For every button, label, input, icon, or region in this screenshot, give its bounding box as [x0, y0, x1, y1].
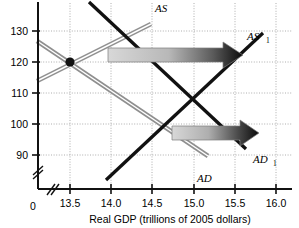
- x-tick-label-14-5: 14.5: [142, 197, 163, 209]
- curve-label-ad1: AD: [252, 153, 268, 165]
- x-tick-label-15-0: 15.0: [184, 197, 205, 209]
- y-tick-label-110: 110: [11, 87, 28, 99]
- x-tick-label-15-5: 15.5: [225, 197, 246, 209]
- curve-label-as: AS: [154, 2, 168, 14]
- initial-equilibrium-point: [65, 57, 74, 66]
- curve-label-ad: AD: [196, 172, 212, 184]
- curve-label-ad1-group: AD 1: [252, 153, 277, 168]
- origin-label: 0: [30, 200, 36, 212]
- y-tick-label-120: 120: [10, 56, 28, 68]
- curve-label-as1-group: AS 1: [246, 30, 270, 45]
- chart-canvas: 130 120 110 100 90 0 13.5 14.0 14.5 15.0…: [0, 0, 299, 228]
- x-tick-label-13-5: 13.5: [60, 197, 81, 209]
- aggregate-supply-demand-chart: 130 120 110 100 90 0 13.5 14.0 14.5 15.0…: [0, 0, 299, 228]
- x-tick-label-16-0: 16.0: [266, 197, 287, 209]
- y-tick-label-90: 90: [16, 149, 28, 161]
- y-tick-label-130: 130: [10, 25, 28, 37]
- curve-label-ad1-subscript: 1: [273, 159, 277, 168]
- y-tick-label-100: 100: [10, 118, 28, 130]
- curve-label-as1: AS: [246, 30, 260, 42]
- supply-shift-arrow: [108, 42, 243, 68]
- x-axis-title: Real GDP (trillions of 2005 dollars): [89, 213, 250, 225]
- curve-label-as1-subscript: 1: [266, 36, 270, 45]
- x-tick-label-14-0: 14.0: [101, 197, 122, 209]
